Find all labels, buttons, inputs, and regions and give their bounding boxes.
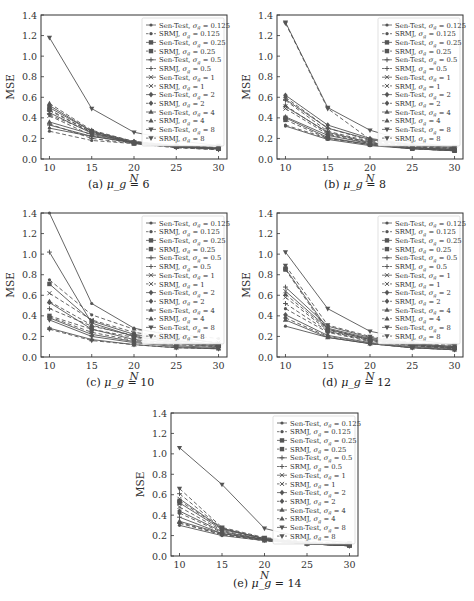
caption-value: = 12 bbox=[364, 376, 391, 389]
x-tick-label: 25 bbox=[301, 559, 313, 570]
caption-value: = 6 bbox=[130, 178, 150, 191]
y-tick-label: 0.0 bbox=[152, 551, 167, 562]
caption-var: μ_g bbox=[252, 577, 272, 590]
chart-svg: 0.00.20.40.60.81.01.21.41015202530NMSESe… bbox=[0, 0, 474, 601]
caption-value: = 10 bbox=[127, 376, 154, 389]
caption-c: (c) μ_g = 10 bbox=[86, 376, 152, 389]
x-tick-label: 10 bbox=[173, 559, 185, 570]
y-axis-label: MSE bbox=[134, 472, 146, 498]
caption-prefix: (b) bbox=[324, 178, 340, 191]
y-tick-label: 1.0 bbox=[152, 448, 167, 459]
caption-var: μ_g bbox=[341, 376, 361, 389]
caption-var: μ_g bbox=[343, 178, 363, 191]
caption-d: (d) μ_g = 12 bbox=[322, 376, 388, 389]
caption-prefix: (a) bbox=[88, 178, 103, 191]
y-tick-label: 1.4 bbox=[152, 408, 167, 419]
caption-prefix: (e) bbox=[233, 577, 248, 590]
caption-e: (e) μ_g = 14 bbox=[233, 577, 299, 590]
y-tick-label: 0.2 bbox=[152, 530, 167, 541]
y-tick-label: 0.6 bbox=[152, 489, 167, 500]
x-tick-label: 15 bbox=[216, 559, 228, 570]
caption-value: = 8 bbox=[366, 178, 386, 191]
y-tick-label: 0.8 bbox=[152, 469, 167, 480]
caption-prefix: (d) bbox=[322, 376, 338, 389]
chart-panel-e: 0.00.20.40.60.81.01.21.41015202530NMSESe… bbox=[0, 0, 474, 601]
y-tick-label: 1.2 bbox=[152, 428, 167, 439]
caption-var: μ_g bbox=[107, 178, 127, 191]
legend: Sen-Test, σg = 0.125SRMJ, σg = 0.125Sen-… bbox=[273, 416, 361, 544]
y-tick-label: 0.4 bbox=[152, 510, 167, 521]
caption-prefix: (c) bbox=[86, 376, 101, 389]
x-tick-label: 30 bbox=[343, 559, 355, 570]
caption-var: μ_g bbox=[104, 376, 124, 389]
caption-b: (b) μ_g = 8 bbox=[324, 178, 384, 191]
caption-a: (a) μ_g = 6 bbox=[88, 178, 148, 191]
caption-value: = 14 bbox=[275, 577, 302, 590]
